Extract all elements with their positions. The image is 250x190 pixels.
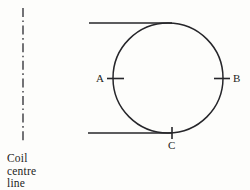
caption-line-coil: Coil xyxy=(7,152,36,165)
point-a-label: A xyxy=(96,73,104,84)
coil-circle xyxy=(113,23,223,133)
coil-diagram-canvas xyxy=(0,0,250,190)
caption-line-centre: centre xyxy=(7,165,36,178)
caption-line-line: line xyxy=(7,177,36,190)
coil-centre-line-caption: Coil centre line xyxy=(7,152,36,190)
coil-diagram: A B C Coil centre line xyxy=(0,0,250,190)
point-c-label: C xyxy=(168,140,176,151)
point-b-label: B xyxy=(233,73,241,84)
